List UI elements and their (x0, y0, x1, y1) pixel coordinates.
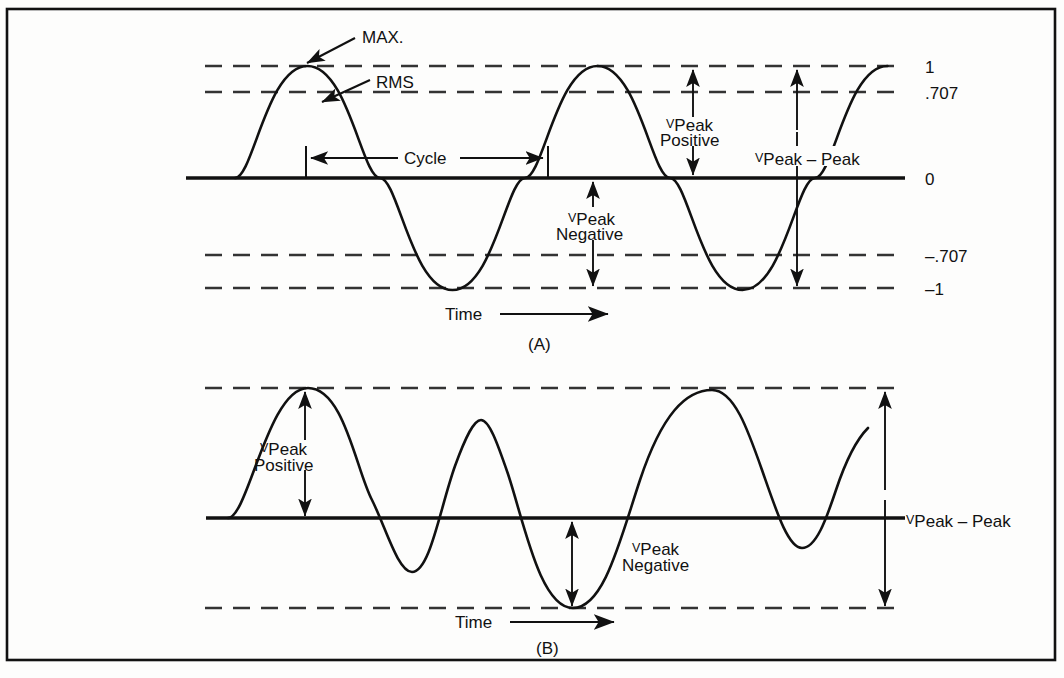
vpeak-negative-negative-a: Negative (556, 225, 623, 244)
y-tick-minus-707: –.707 (925, 247, 968, 266)
max-label: MAX. (362, 28, 404, 47)
y-tick-plus-707: .707 (925, 84, 958, 103)
time-label-b: Time (455, 613, 492, 632)
y-tick-zero: 0 (925, 170, 934, 189)
vpeak-peak-label-b: VPeak – Peak (906, 512, 1011, 531)
vpeak-peak-label-a: VPeak – Peak (755, 150, 860, 169)
vpeak-positive-positive-a: Positive (660, 131, 720, 150)
vpeak-peak-sub-b: Peak – Peak (914, 512, 1011, 531)
figure-container: MAX. RMS Cycle VPeak Positive VPeak N (0, 0, 1064, 678)
waveform-diagram: MAX. RMS Cycle VPeak Positive VPeak N (0, 0, 1064, 678)
y-tick-plus-1: 1 (925, 58, 934, 77)
vpeak-peak-sub-a: Peak – Peak (763, 150, 860, 169)
panel-caption-a: (A) (528, 335, 551, 354)
complex-waveform-b (228, 388, 868, 608)
panel-caption-b: (B) (536, 639, 559, 658)
cycle-label: Cycle (404, 149, 447, 168)
rms-label: RMS (376, 73, 414, 92)
vpeak-negative-negative-b: Negative (622, 556, 689, 575)
panel-b: VPeak Positive VPeak Negative VPeak – Pe… (205, 388, 1011, 658)
y-tick-minus-1: –1 (925, 280, 944, 299)
max-callout-arrow (307, 38, 355, 63)
panel-a: MAX. RMS Cycle VPeak Positive VPeak N (186, 28, 968, 354)
time-label-a: Time (445, 305, 482, 324)
vpeak-positive-positive-b: Positive (254, 456, 314, 475)
